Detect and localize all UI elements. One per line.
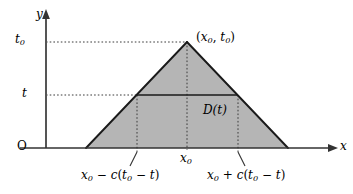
- tick-t-base: t: [22, 86, 27, 100]
- right-endpoint-label: x0 + c(t0 − t): [207, 169, 285, 182]
- tick-x0-sub: 0: [187, 156, 192, 166]
- right-close-paren: ): [281, 168, 286, 182]
- y-axis-arrowhead: [42, 9, 50, 19]
- left-operator: −: [93, 168, 111, 182]
- diagram-canvas: y x O t0 t x0 (x0, t0) D(t) x0 − c(t0 − …: [0, 0, 353, 194]
- tick-t0-sub: 0: [20, 37, 25, 47]
- y-axis-label: y: [36, 8, 43, 20]
- x-axis-arrowhead: [328, 144, 338, 152]
- tick-x0-base: x: [180, 151, 187, 165]
- interval-label-dt: D(t): [203, 104, 227, 116]
- right-operator: +: [219, 168, 237, 182]
- left-x-base: x: [81, 168, 88, 182]
- right-x-base: x: [207, 168, 214, 182]
- leader-left-endpoint: [130, 152, 137, 166]
- tick-label-x0: x0: [180, 152, 192, 165]
- leader-right-endpoint: [238, 152, 245, 166]
- right-minus: −: [258, 168, 276, 182]
- tick-label-t: t: [22, 87, 27, 99]
- origin-label: O: [17, 140, 27, 152]
- apex-point-label: (x0, t0): [196, 31, 235, 44]
- left-minus: −: [132, 168, 150, 182]
- x-axis-label: x: [340, 140, 347, 152]
- apex-close-paren: ): [230, 30, 235, 44]
- left-endpoint-label: x0 − c(t0 − t): [81, 169, 159, 182]
- left-close-paren: ): [155, 168, 160, 182]
- tick-label-t0: t0: [15, 33, 25, 46]
- diagram-svg: [0, 0, 353, 194]
